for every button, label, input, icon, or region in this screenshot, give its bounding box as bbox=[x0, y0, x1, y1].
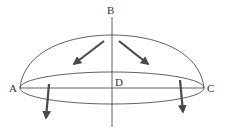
label-b: B bbox=[107, 4, 114, 16]
dome-diagram: B A C D bbox=[0, 0, 225, 131]
arrow-lower-right bbox=[180, 80, 183, 112]
label-d: D bbox=[115, 76, 123, 88]
arrow-lower-left bbox=[46, 84, 49, 118]
label-a: A bbox=[9, 82, 17, 94]
arrow-upper-right bbox=[119, 41, 148, 64]
label-c: C bbox=[207, 82, 214, 94]
arrow-upper-left bbox=[74, 41, 104, 64]
